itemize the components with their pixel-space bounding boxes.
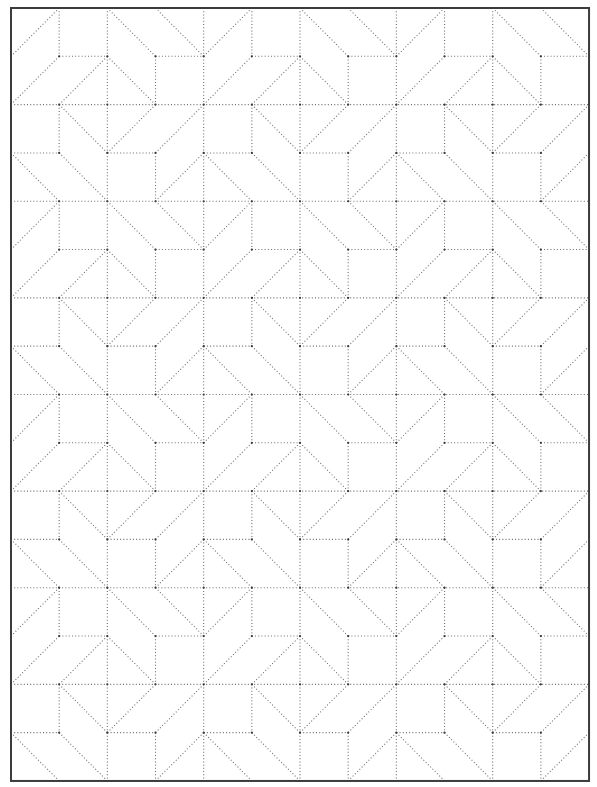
intersection-dot: [492, 345, 494, 347]
intersection-dot: [58, 393, 60, 395]
intersection-dot: [251, 248, 253, 250]
intersection-dot: [443, 635, 445, 637]
intersection-dot: [492, 587, 494, 589]
intersection-dot: [540, 587, 542, 589]
intersection-dot: [203, 587, 205, 589]
intersection-dot: [443, 393, 445, 395]
intersection-dot: [251, 345, 253, 347]
intersection-dot: [299, 442, 301, 444]
intersection-dot: [443, 248, 445, 250]
intersection-dot: [540, 200, 542, 202]
intersection-dot: [443, 200, 445, 202]
intersection-dot: [154, 442, 156, 444]
intersection-dot: [395, 152, 397, 154]
intersection-dot: [492, 732, 494, 734]
intersection-dot: [154, 732, 156, 734]
intersection-dot: [106, 297, 108, 299]
intersection-dot: [106, 587, 108, 589]
intersection-dot: [540, 104, 542, 106]
intersection-dot: [203, 442, 205, 444]
intersection-dot: [106, 393, 108, 395]
intersection-dot: [251, 104, 253, 106]
intersection-dot: [540, 442, 542, 444]
intersection-dot: [347, 587, 349, 589]
intersection-dot: [203, 490, 205, 492]
intersection-dot: [58, 248, 60, 250]
intersection-dot: [251, 490, 253, 492]
intersection-dot: [203, 248, 205, 250]
intersection-dot: [299, 55, 301, 57]
intersection-dot: [154, 587, 156, 589]
intersection-dot: [299, 393, 301, 395]
intersection-dot: [251, 393, 253, 395]
intersection-dot: [443, 345, 445, 347]
intersection-dot: [347, 200, 349, 202]
intersection-dot: [395, 248, 397, 250]
intersection-dot: [443, 55, 445, 57]
intersection-dot: [395, 200, 397, 202]
intersection-dot: [251, 635, 253, 637]
intersection-dot: [106, 152, 108, 154]
intersection-dot: [443, 490, 445, 492]
intersection-dot: [203, 297, 205, 299]
intersection-dot: [299, 538, 301, 540]
intersection-dot: [540, 635, 542, 637]
intersection-dot: [347, 538, 349, 540]
intersection-dot: [540, 732, 542, 734]
intersection-dot: [395, 55, 397, 57]
intersection-dot: [203, 345, 205, 347]
intersection-dot: [492, 104, 494, 106]
intersection-dot: [203, 683, 205, 685]
intersection-dot: [540, 55, 542, 57]
intersection-dot: [443, 587, 445, 589]
intersection-dot: [154, 152, 156, 154]
intersection-dot: [299, 248, 301, 250]
intersection-dot: [299, 104, 301, 106]
intersection-dot: [395, 732, 397, 734]
intersection-dot: [203, 635, 205, 637]
intersection-dot: [395, 297, 397, 299]
intersection-dot: [443, 104, 445, 106]
intersection-dot: [106, 635, 108, 637]
intersection-dot: [492, 490, 494, 492]
intersection-dot: [347, 104, 349, 106]
intersection-dot: [106, 104, 108, 106]
intersection-dot: [154, 490, 156, 492]
intersection-dot: [106, 490, 108, 492]
intersection-dot: [58, 200, 60, 202]
intersection-dot: [58, 587, 60, 589]
intersection-dot: [58, 538, 60, 540]
intersection-dot: [58, 490, 60, 492]
intersection-dot: [154, 248, 156, 250]
intersection-dot: [299, 732, 301, 734]
intersection-dot: [251, 732, 253, 734]
intersection-dot: [251, 200, 253, 202]
intersection-dot: [251, 538, 253, 540]
intersection-dot: [299, 345, 301, 347]
intersection-dot: [395, 442, 397, 444]
intersection-dot: [443, 442, 445, 444]
intersection-dot: [492, 442, 494, 444]
intersection-dot: [299, 683, 301, 685]
intersection-dot: [154, 200, 156, 202]
intersection-dot: [203, 152, 205, 154]
intersection-dot: [299, 152, 301, 154]
intersection-dot: [395, 635, 397, 637]
intersection-dot: [492, 393, 494, 395]
intersection-dot: [251, 152, 253, 154]
intersection-dot: [58, 635, 60, 637]
intersection-dot: [540, 345, 542, 347]
intersection-dot: [58, 297, 60, 299]
intersection-dot: [492, 248, 494, 250]
intersection-dot: [540, 538, 542, 540]
intersection-dot: [58, 345, 60, 347]
intersection-dot: [203, 55, 205, 57]
intersection-dot: [540, 152, 542, 154]
intersection-dot: [251, 442, 253, 444]
intersection-dot: [299, 200, 301, 202]
intersection-dot: [106, 538, 108, 540]
intersection-dot: [106, 55, 108, 57]
intersection-dot: [540, 297, 542, 299]
intersection-dot: [540, 393, 542, 395]
page-background: [0, 0, 597, 787]
